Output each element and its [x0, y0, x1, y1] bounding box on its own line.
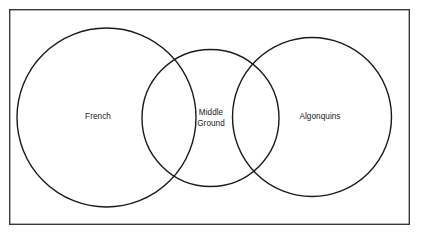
venn-label-algonquins: Algonquins — [299, 112, 340, 123]
venn-label-middle-ground: Middle Ground — [197, 108, 225, 129]
venn-label-middle-ground-line-2: Ground — [197, 118, 225, 129]
venn-label-french: French — [85, 112, 111, 123]
venn-label-french-line-1: French — [85, 112, 111, 123]
venn-label-middle-ground-line-1: Middle — [197, 108, 225, 119]
venn-diagram-canvas: French Middle Ground Algonquins — [0, 0, 422, 237]
venn-label-algonquins-line-1: Algonquins — [299, 112, 340, 123]
